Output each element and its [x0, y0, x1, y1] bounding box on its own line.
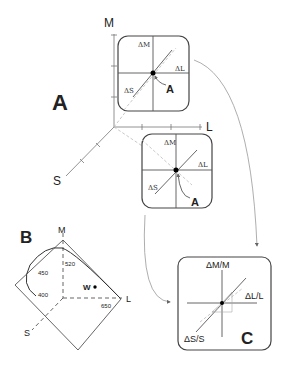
- inset-bottom-dl: ΔL: [198, 161, 208, 169]
- inset-top-dm: ΔM: [138, 41, 150, 49]
- wl-520: 520: [65, 261, 76, 267]
- arrow-bottom-to-c: [144, 215, 170, 302]
- panel-b-l-label: L: [126, 294, 131, 304]
- panel-c-label: C: [241, 329, 253, 348]
- panel-c-dl: ΔL/L: [245, 291, 264, 301]
- panel-b-m-label: M: [58, 225, 66, 235]
- inset-top: ΔM ΔL ΔS A: [118, 36, 189, 111]
- panel-a-label: A: [52, 90, 68, 115]
- s-axis: [66, 127, 114, 176]
- white-point: [93, 285, 96, 288]
- inset-top-point: A: [166, 83, 174, 95]
- panel-b: B M L S 400 450 520 650 W: [15, 225, 131, 350]
- inset-bottom-point: A: [191, 196, 199, 208]
- s-axis-label: S: [53, 174, 61, 188]
- wl-650: 650: [101, 303, 112, 309]
- inset-bottom-ds: ΔS: [148, 184, 158, 192]
- inset-bottom: ΔM ΔL ΔS A: [142, 134, 212, 208]
- panel-b-label: B: [20, 228, 32, 247]
- l-axis-label: L: [206, 120, 213, 134]
- wl-400: 400: [38, 292, 49, 298]
- wl-450: 450: [38, 270, 49, 276]
- panel-a: A M L S ΔM ΔL ΔS: [52, 16, 213, 208]
- panel-c: ΔM/M ΔL/L ΔS/S C: [178, 257, 271, 350]
- panel-b-s-label: S: [24, 328, 30, 338]
- panel-c-ds: ΔS/S: [184, 334, 205, 344]
- white-point-label: W: [83, 283, 91, 292]
- cone-space-diagram: A M L S ΔM ΔL ΔS: [0, 0, 285, 370]
- inset-top-ds: ΔS: [124, 87, 134, 95]
- inset-top-dl: ΔL: [175, 65, 185, 73]
- panel-c-dm: ΔM/M: [206, 260, 230, 270]
- m-axis-label: M: [104, 16, 114, 30]
- inset-bottom-dm: ΔM: [164, 139, 176, 147]
